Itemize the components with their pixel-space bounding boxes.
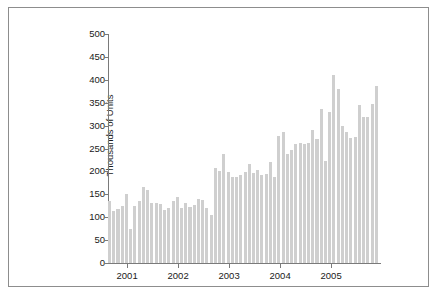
bar [121,206,124,263]
bar [205,208,208,263]
bar [337,89,340,263]
x-axis-tick-label: 2001 [107,270,147,281]
bar [265,174,268,263]
x-axis-tick-mark [280,264,281,268]
bar [324,161,327,263]
y-axis-tick-label: 50 [71,235,105,244]
bar [332,75,335,263]
x-axis-tick-mark [127,264,128,268]
bar [345,132,348,263]
bar [354,137,357,263]
bar [371,104,374,263]
y-axis-tick-label: 200 [71,166,105,175]
x-axis-tick-label: 2002 [158,270,198,281]
bar [210,215,213,263]
bar [235,177,238,263]
y-axis-tick-label: 0 [71,258,105,267]
bar [315,139,318,263]
bar [311,130,314,263]
bar [341,126,344,263]
bar [201,200,204,263]
bar [269,162,272,263]
y-axis-tick-label: 350 [71,98,105,107]
bar [155,203,158,263]
bar [150,203,153,263]
x-axis-tick-mark [331,264,332,268]
bar [307,143,310,263]
bar [184,203,187,263]
y-axis-tick-mark [104,80,108,81]
bar [172,201,175,263]
x-axis-tick-label: 2004 [260,270,300,281]
bar [197,199,200,263]
y-axis-tick-mark [104,194,108,195]
y-axis-tick-mark [104,103,108,104]
y-axis-tick-mark [104,57,108,58]
bar [349,138,352,263]
bar [176,197,179,263]
bar [163,210,166,263]
y-axis-tick-mark [104,126,108,127]
y-axis-tick-mark [104,171,108,172]
y-axis-tick-mark [104,34,108,35]
bar [214,168,217,263]
bar [193,205,196,263]
bar [299,143,302,263]
y-axis-tick-label: 300 [71,121,105,130]
x-axis-tick-mark [178,264,179,268]
bar [146,190,149,263]
y-axis-tick-label: 450 [71,52,105,61]
y-axis-tick-label: 150 [71,189,105,198]
bar [277,136,280,263]
bar [286,154,289,263]
bar [129,229,132,263]
bar [375,86,378,263]
bar [133,206,136,263]
bar [125,194,128,263]
bar [303,144,306,263]
bar [362,117,365,263]
bar [366,117,369,263]
bar [273,177,276,263]
plot-area [108,34,380,263]
bar [282,132,285,263]
bar [188,207,191,263]
chart-figure: 500450400350300250200150100500 Thousands… [0,0,438,296]
x-axis-line [108,263,381,264]
y-axis-tick-label: 250 [71,144,105,153]
bar [244,172,247,263]
bar [222,154,225,263]
y-axis-tick-mark [104,217,108,218]
bar [239,175,242,263]
bar [358,105,361,263]
bar [252,173,255,263]
y-axis-title-holder: Thousands of Units [61,34,75,264]
x-axis-tick-mark [229,264,230,268]
x-axis-tick-label: 2005 [311,270,351,281]
chart-frame: 500450400350300250200150100500 Thousands… [8,7,429,287]
y-axis-tick-mark [104,263,108,264]
bar [180,208,183,263]
bar [108,201,111,263]
bar-series [108,34,380,263]
y-axis-tick-mark [104,149,108,150]
bar [116,209,119,263]
bar [167,208,170,263]
bar [159,204,162,263]
bar [218,171,221,263]
bar [260,175,263,263]
x-axis-tick-label: 2003 [209,270,249,281]
y-axis-tick-label: 400 [71,75,105,84]
bar [231,177,234,263]
bar [138,201,141,263]
bar [290,150,293,263]
bar [142,187,145,263]
bar [112,211,115,263]
y-axis-tick-label: 500 [71,29,105,38]
bar [320,109,323,263]
bar [248,164,251,263]
bar [227,172,230,263]
y-axis-tick-mark [104,240,108,241]
bar [328,112,331,263]
bar [294,144,297,263]
